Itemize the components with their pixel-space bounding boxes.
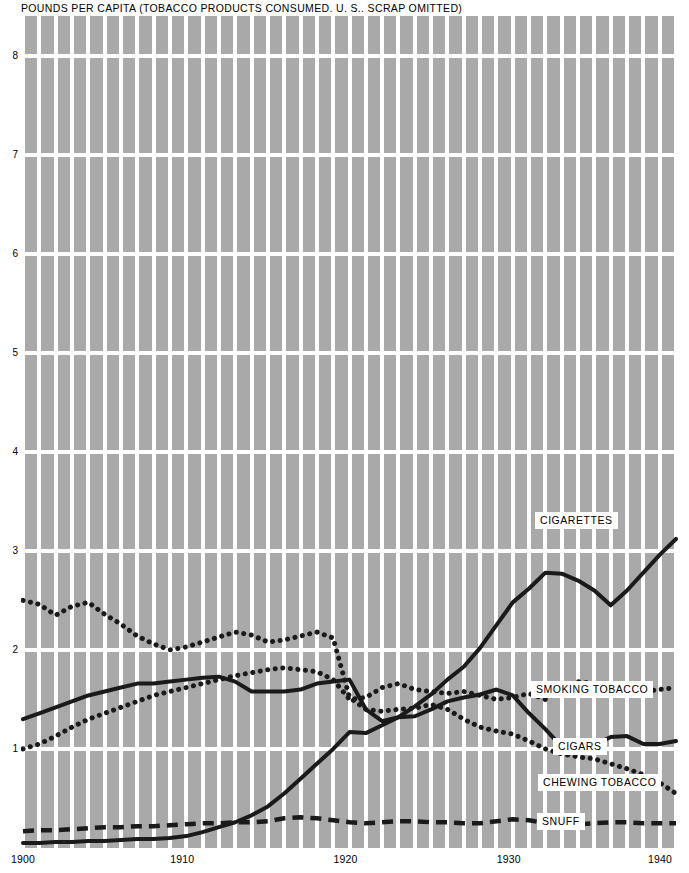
series-label: CHEWING TOBACCO	[538, 774, 661, 791]
series-label: CIGARETTES	[535, 512, 618, 529]
x-tick-label: 1900	[11, 854, 35, 865]
chart-page: POUNDS PER CAPITA (TOBACCO PRODUCTS CONS…	[0, 0, 689, 873]
y-tick-label: 8	[2, 51, 18, 61]
y-tick-label: 2	[2, 645, 18, 655]
x-tick-label: 1930	[497, 854, 521, 865]
y-tick-label: 7	[2, 150, 18, 160]
series-label: SMOKING TOBACCO	[531, 681, 653, 698]
y-tick-label: 4	[2, 447, 18, 457]
y-tick-label: 3	[2, 546, 18, 556]
y-tick-label: 1	[2, 744, 18, 754]
series-label: SNUFF	[537, 813, 585, 830]
plot-area	[21, 16, 678, 848]
y-tick-label: 5	[2, 348, 18, 358]
series-label: CIGARS	[553, 738, 607, 755]
series-lines	[21, 16, 678, 848]
x-tick-label: 1910	[170, 854, 194, 865]
x-tick-label: 1940	[648, 854, 672, 865]
x-tick-label: 1920	[334, 854, 358, 865]
page-title: POUNDS PER CAPITA (TOBACCO PRODUCTS CONS…	[21, 2, 462, 14]
y-tick-label: 6	[2, 249, 18, 259]
